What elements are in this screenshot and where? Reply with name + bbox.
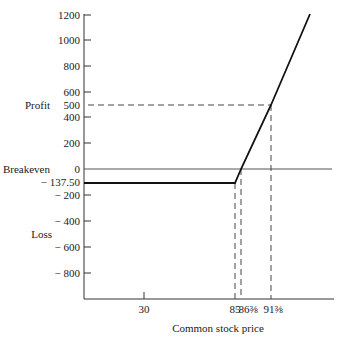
x-axis-title: Common stock price (172, 322, 264, 334)
svg-text:0: 0 (75, 163, 81, 175)
svg-text:400: 400 (64, 111, 81, 123)
profit-loss-chart: 1200 1000 800 600 500 400 200 0 − 137.50… (0, 0, 341, 339)
svg-text:− 200: − 200 (55, 189, 81, 201)
y-ticks (84, 15, 91, 273)
profit-label: Profit (25, 99, 50, 111)
svg-text:30: 30 (139, 303, 151, 315)
svg-text:− 137.50: − 137.50 (41, 176, 81, 188)
svg-text:91⅜: 91⅜ (263, 303, 283, 315)
svg-text:1200: 1200 (58, 9, 81, 21)
svg-text:800: 800 (64, 60, 81, 72)
svg-text:86⅜: 86⅜ (238, 303, 258, 315)
x-tick-labels: 30 85 86⅜ 91⅜ (139, 303, 284, 315)
payoff-line (84, 14, 310, 183)
breakeven-label: Breakeven (3, 163, 51, 175)
svg-text:− 800: − 800 (55, 267, 81, 279)
svg-text:200: 200 (64, 137, 81, 149)
svg-text:600: 600 (64, 86, 81, 98)
loss-label: Loss (31, 228, 52, 240)
svg-text:500: 500 (64, 99, 81, 111)
svg-text:1000: 1000 (58, 34, 81, 46)
svg-text:− 600: − 600 (55, 241, 81, 253)
svg-text:− 400: − 400 (55, 215, 81, 227)
